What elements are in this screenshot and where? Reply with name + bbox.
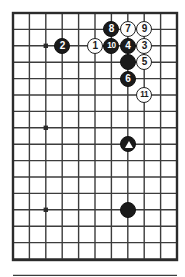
stone-move-number: 8 [109,24,114,34]
stone-move-number: 3 [142,40,147,50]
stone-move-number: 10 [107,41,115,49]
stone-white-11[interactable]: 11 [136,87,152,103]
stone-move-number: 11 [140,90,148,98]
stone-white-9[interactable]: 9 [136,21,152,37]
stone-white-1[interactable]: 1 [87,38,103,54]
triangle-marker-icon [125,141,133,148]
stone-white-3[interactable]: 3 [136,38,152,54]
stone-black-2[interactable]: 2 [54,38,70,54]
stone-move-number: 2 [60,40,65,50]
stone-black-10[interactable]: 10 [103,38,119,54]
stone-black-lower[interactable] [120,202,136,218]
go-diagram: 1234567891011 [0,0,185,277]
stone-layer: 1234567891011 [0,0,185,277]
stone-move-number: 9 [142,24,147,34]
stone-white-5[interactable]: 5 [136,54,152,70]
stone-black-unmarked-upper[interactable] [120,54,136,70]
stone-black-6[interactable]: 6 [120,71,136,87]
stone-move-number: 6 [125,73,130,83]
stone-move-number: 1 [92,40,97,50]
stone-move-number: 4 [125,40,130,50]
stone-black-triangle-marked[interactable] [120,136,136,152]
stone-move-number: 5 [142,57,147,67]
stone-black-8[interactable]: 8 [103,21,119,37]
stone-move-number: 7 [125,24,130,34]
stone-white-7[interactable]: 7 [120,21,136,37]
stone-black-4[interactable]: 4 [120,38,136,54]
